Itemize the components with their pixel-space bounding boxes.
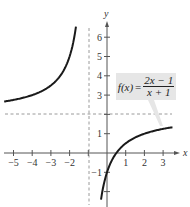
y-axis-arrow-icon — [105, 21, 109, 27]
x-tick-label: −2 — [64, 157, 75, 168]
x-axis-arrow-icon — [174, 151, 180, 155]
function-graph: −5−4−3−2123 −113456 x y — [0, 0, 190, 207]
y-tick-label: 5 — [97, 51, 102, 62]
y-tick-label: −1 — [91, 167, 102, 178]
callout-leader — [148, 100, 163, 126]
y-axis-label: y — [103, 8, 109, 19]
x-tick-label: 3 — [161, 157, 166, 168]
x-axis: −5−4−3−2123 — [4, 150, 180, 168]
equation-equals: = — [135, 81, 141, 93]
x-tick-label: −5 — [8, 157, 19, 168]
x-axis-label: x — [182, 147, 188, 158]
y-tick-label: 4 — [97, 70, 102, 81]
x-tick-label: −4 — [27, 157, 38, 168]
function-label-box: f(x) = 2x − 1 x + 1 — [116, 73, 176, 100]
y-tick-label: 3 — [97, 90, 102, 101]
x-tick-label: 1 — [123, 157, 128, 168]
curve-left-branch — [4, 27, 76, 102]
x-tick-label: −3 — [46, 157, 57, 168]
equation-fraction: 2x − 1 x + 1 — [143, 75, 174, 98]
equation-lhs: f(x) — [118, 81, 133, 93]
y-tick-label: 6 — [97, 32, 102, 43]
x-tick-label: 2 — [142, 157, 147, 168]
y-tick-label: 1 — [97, 128, 102, 139]
equation-denominator: x + 1 — [146, 87, 171, 98]
